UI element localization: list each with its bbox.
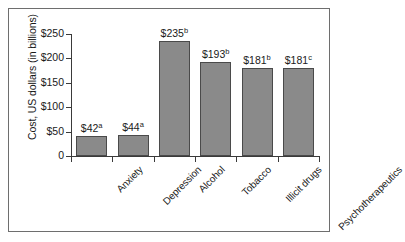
x-axis-category-label: Alcohol [197,164,227,194]
bar [283,68,314,156]
y-axis-tick-mark [66,58,71,59]
x-axis-category-label: Illicit drugs [283,164,323,204]
y-axis-title: Cost, US dollars (in billions) [26,12,38,142]
figure-frame-border: Cost, US dollars (in billions) 0$50$100$… [8,8,330,232]
x-axis-category-label: Psychotherapeutics [336,164,404,232]
y-axis-tick-mark [66,83,71,84]
bar-chart: Cost, US dollars (in billions) 0$50$100$… [9,9,331,233]
y-axis-tick-mark [66,107,71,108]
x-axis-category-label: Tobacco [239,164,273,198]
bar [200,62,231,156]
bar [118,135,149,156]
bar [242,68,273,156]
x-axis-tick-mark [154,157,155,162]
bar-value-label: $235b [144,27,204,39]
y-axis-tick-label: 0 [58,149,64,161]
y-axis-tick-label: $100 [41,100,64,112]
x-axis-tick-mark [278,157,279,162]
x-axis-tick-mark [112,157,113,162]
y-axis-tick-label: $150 [41,76,64,88]
bar [76,136,107,156]
x-axis-tick-mark [71,157,72,162]
y-axis-tick-label: $200 [41,51,64,63]
bar-value-label: $44a [103,121,163,133]
y-axis-tick-mark [66,34,71,35]
y-axis-line [71,34,72,157]
x-axis-tick-mark [236,157,237,162]
bar-value-label: $181c [268,54,328,66]
plot-area: 0$50$100$150$200$250 $42a$44a$235b$193b$… [71,34,319,156]
y-axis-tick-label: $250 [41,27,64,39]
x-axis-tick-mark [319,157,320,162]
x-axis-tick-mark [195,157,196,162]
x-axis-category-label: Anxiety [114,164,144,194]
